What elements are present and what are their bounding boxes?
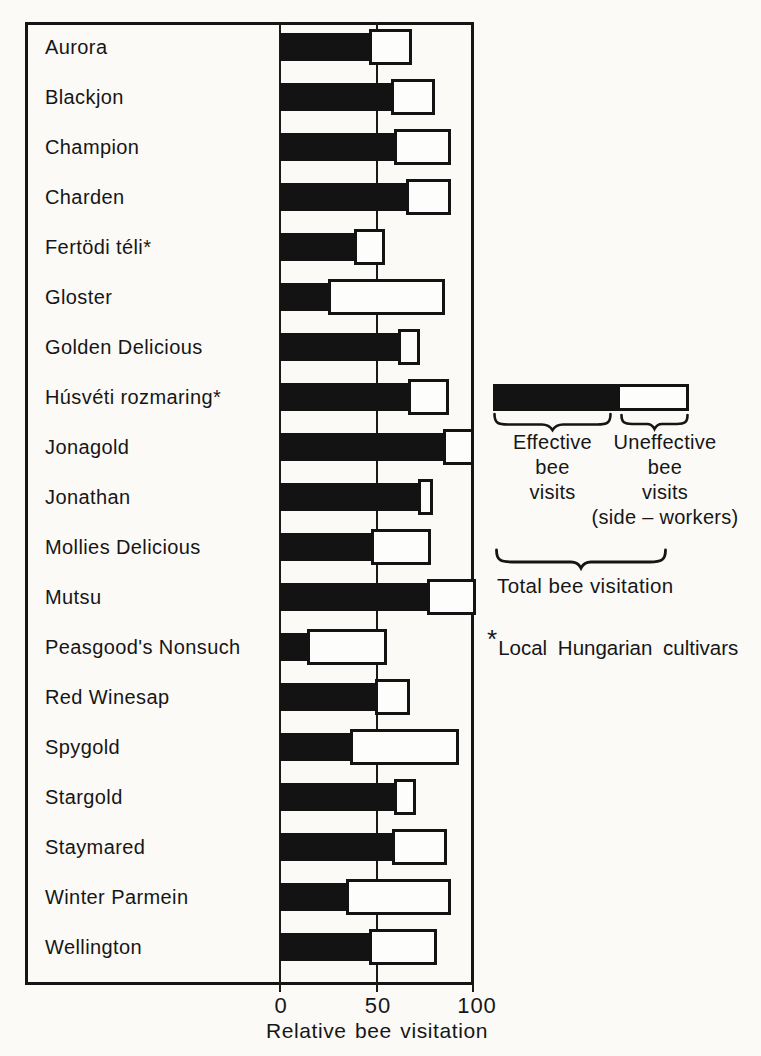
bar-effective-segment: [280, 583, 429, 611]
x-tick-label-50: 50: [365, 993, 391, 1019]
cultivar-label: Mutsu: [45, 586, 101, 609]
cultivar-label: Staymared: [45, 836, 145, 859]
bar-uneffective-segment: [328, 279, 445, 315]
cultivar-label: Spygold: [45, 736, 120, 759]
bar-uneffective-segment: [443, 429, 474, 465]
cultivar-label: Jonathan: [45, 486, 131, 509]
bar-uneffective-segment: [350, 729, 459, 765]
bar-effective-segment: [280, 933, 371, 961]
underbrace-uneffective-icon: [620, 414, 689, 430]
bar-effective-segment: [280, 733, 352, 761]
bar-effective-segment: [280, 783, 396, 811]
legend-effective-swatch: [493, 384, 617, 411]
footnote-text: Local Hungarian cultivars: [498, 636, 738, 659]
x-tick-label-100: 100: [457, 993, 497, 1019]
bar-uneffective-segment: [406, 179, 451, 215]
cultivar-label: Blackjon: [45, 86, 124, 109]
bar-effective-segment: [280, 283, 330, 311]
legend-effective-line3: visits: [529, 480, 575, 505]
legend-uneffective-line2: bee: [648, 455, 682, 480]
bar-uneffective-segment: [418, 479, 434, 515]
bar-uneffective-segment: [408, 379, 449, 415]
cultivar-label: Jonagold: [45, 436, 129, 459]
cultivar-label: Húsvéti rozmaring*: [45, 386, 221, 409]
bar-uneffective-segment: [394, 779, 415, 815]
bar-uneffective-segment: [369, 929, 437, 965]
bar-uneffective-segment: [427, 579, 476, 615]
bar-effective-segment: [280, 333, 400, 361]
underbrace-total-icon: [495, 549, 667, 569]
bar-effective-segment: [280, 433, 445, 461]
legend-sample-bar: [493, 384, 689, 411]
bar-effective-segment: [280, 633, 309, 661]
bar-effective-segment: [280, 233, 356, 261]
cultivar-label: Aurora: [45, 36, 107, 59]
cultivar-label: Fertödi téli*: [45, 236, 151, 259]
bar-effective-segment: [280, 133, 396, 161]
bar-effective-segment: [280, 833, 394, 861]
cultivar-label: Winter Parmein: [45, 886, 188, 909]
bar-effective-segment: [280, 383, 410, 411]
bar-uneffective-segment: [391, 79, 436, 115]
bar-uneffective-segment: [394, 129, 450, 165]
x-tick-50: [376, 985, 378, 992]
legend-effective-line2: bee: [535, 455, 569, 480]
bar-effective-segment: [280, 183, 408, 211]
cultivar-label: Charden: [45, 186, 125, 209]
bar-effective-segment: [280, 483, 420, 511]
cultivar-label: Peasgood's Nonsuch: [45, 636, 241, 659]
cultivar-label: Champion: [45, 136, 139, 159]
bar-effective-segment: [280, 83, 393, 111]
legend-effective-line1: Effective: [513, 430, 592, 455]
bar-uneffective-segment: [392, 829, 446, 865]
legend-label-uneffective: Uneffective bee visits (side – workers): [600, 430, 730, 530]
cultivar-label: Gloster: [45, 286, 112, 309]
bar-uneffective-segment: [375, 679, 410, 715]
underbrace-effective-icon: [493, 413, 612, 431]
cultivar-label: Stargold: [45, 786, 123, 809]
legend-uneffective-line1: Uneffective: [614, 430, 717, 455]
x-tick-100: [472, 985, 474, 992]
bar-uneffective-segment: [398, 329, 419, 365]
footnote-asterisk: *: [487, 624, 497, 654]
legend-total-label: Total bee visitation: [497, 574, 674, 598]
legend-uneffective-swatch: [617, 384, 689, 411]
bar-effective-segment: [280, 533, 373, 561]
cultivar-label: Mollies Delicious: [45, 536, 201, 559]
bar-uneffective-segment: [307, 629, 387, 665]
cultivar-label: Golden Delicious: [45, 336, 203, 359]
bar-uneffective-segment: [354, 229, 385, 265]
figure-page: AuroraBlackjonChampionChardenFertödi tél…: [0, 0, 761, 1056]
bar-effective-segment: [280, 33, 371, 61]
legend-uneffective-line3: visits: [642, 480, 688, 505]
bar-effective-segment: [280, 683, 377, 711]
bar-effective-segment: [280, 883, 348, 911]
legend-label-effective: Effective bee visits: [505, 430, 600, 505]
footnote-local-cultivars: *Local Hungarian cultivars: [487, 633, 738, 659]
x-tick-label-0: 0: [274, 993, 287, 1019]
cultivar-label: Red Winesap: [45, 686, 169, 709]
legend-uneffective-line4: (side – workers): [591, 505, 738, 530]
x-tick-0: [279, 985, 281, 992]
cultivar-label: Wellington: [45, 936, 142, 959]
bar-uneffective-segment: [369, 29, 412, 65]
x-axis-title: Relative bee visitation: [266, 1019, 488, 1043]
bar-uneffective-segment: [346, 879, 451, 915]
bar-uneffective-segment: [371, 529, 431, 565]
